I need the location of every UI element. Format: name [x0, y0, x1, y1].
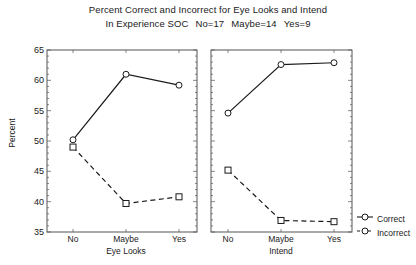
- data-point-correct: [123, 71, 129, 77]
- panel-frame: [47, 50, 197, 232]
- data-point-incorrect: [123, 200, 129, 206]
- legend: [357, 214, 373, 234]
- data-point-correct: [331, 60, 337, 66]
- data-point-incorrect: [278, 217, 284, 223]
- series-line-correct: [228, 63, 334, 113]
- data-point-correct: [176, 82, 182, 88]
- data-point-incorrect: [225, 167, 231, 173]
- data-point-correct: [225, 110, 231, 116]
- legend-marker-correct: [362, 214, 368, 220]
- data-point-correct: [278, 62, 284, 68]
- panel-intend: [211, 50, 352, 232]
- panel-frame: [211, 50, 352, 232]
- series-line-incorrect: [228, 170, 334, 222]
- panel-eye-looks: [47, 50, 197, 232]
- data-point-incorrect: [70, 144, 76, 150]
- series-line-incorrect: [73, 147, 179, 203]
- plot-area: [0, 0, 416, 265]
- data-point-incorrect: [176, 194, 182, 200]
- legend-marker-incorrect: [362, 228, 368, 234]
- data-point-correct: [70, 137, 76, 143]
- chart-container: Percent Correct and Incorrect for Eye Lo…: [0, 0, 416, 265]
- data-point-incorrect: [331, 219, 337, 225]
- series-line-correct: [73, 74, 179, 140]
